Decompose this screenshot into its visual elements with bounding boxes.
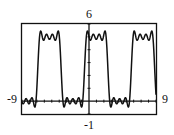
ymin-label: -1 — [84, 118, 94, 132]
graph-window: 6 -1 -9 9 — [0, 0, 174, 135]
ymax-label: 6 — [86, 7, 92, 21]
xmin-label: -9 — [7, 92, 17, 106]
xmax-label: 9 — [162, 92, 168, 106]
